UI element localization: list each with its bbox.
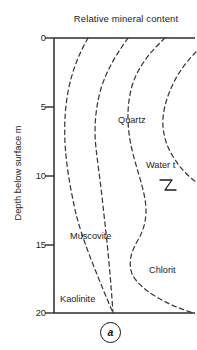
zone-label-quartz: Quartz <box>118 115 146 125</box>
zone-label-water-table: Water t <box>146 160 175 170</box>
zone-label-kaolinite: Kaolinite <box>60 294 95 304</box>
zone-label-chlorite: Chlorit <box>149 265 176 275</box>
curve-kaolinite-muscovite-boundary <box>65 38 113 313</box>
plot-area <box>0 0 197 350</box>
mineral-depth-profile-figure: Relative mineral content Depth below sur… <box>0 0 197 350</box>
curve-muscovite-quartz-boundary <box>95 38 128 313</box>
water-table-icon <box>160 180 176 190</box>
panel-label: a <box>100 322 121 343</box>
zone-label-muscovite: Muscovite <box>70 231 111 241</box>
